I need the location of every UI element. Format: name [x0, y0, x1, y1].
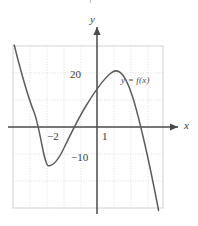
curve-annotation-label: y = f(x) — [121, 76, 150, 85]
x-axis — [8, 123, 178, 130]
x-tick-label-1: 1 — [102, 131, 108, 142]
y-axis — [93, 27, 100, 214]
graph-canvas — [0, 0, 198, 226]
y-tick-label-20: 20 — [70, 69, 81, 80]
x-axis-name-label: x — [184, 120, 189, 131]
y-tick-label-neg10: −10 — [71, 152, 88, 163]
y-axis-name-label: y — [90, 14, 95, 25]
x-tick-label-neg2: −2 — [47, 131, 59, 142]
function-graph-figure: 20 −10 −2 1 y x y = f(x) — [0, 0, 198, 226]
